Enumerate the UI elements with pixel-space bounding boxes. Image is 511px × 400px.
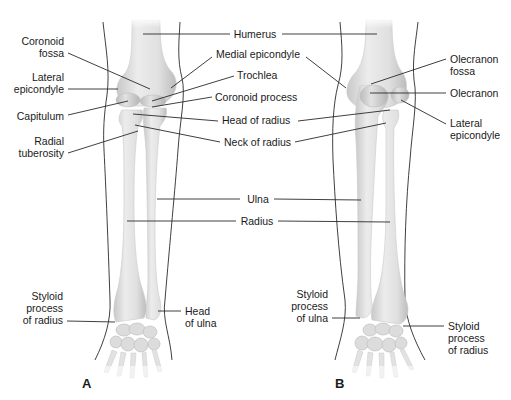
lateral-epicondyle-b xyxy=(391,87,409,103)
label-head-of-ulna-a: Head of ulna xyxy=(158,305,217,329)
svg-text:Olecranon: Olecranon xyxy=(450,53,499,65)
svg-text:process: process xyxy=(26,302,63,314)
svg-text:Ulna: Ulna xyxy=(247,193,269,205)
label-ulna: Ulna xyxy=(157,193,361,205)
svg-text:tuberosity: tuberosity xyxy=(18,147,64,159)
svg-text:Head of radius: Head of radius xyxy=(222,114,290,126)
svg-text:fossa: fossa xyxy=(450,65,475,77)
svg-text:Lateral: Lateral xyxy=(450,117,482,129)
svg-text:of ulna: of ulna xyxy=(185,317,217,329)
svg-text:Neck of radius: Neck of radius xyxy=(224,136,291,148)
svg-text:Coronoid process: Coronoid process xyxy=(215,91,297,103)
capitulum-a xyxy=(116,93,140,107)
label-lateral-epicondyle-a: Lateral epicondyle xyxy=(14,71,118,95)
label-neck-of-radius: Neck of radius xyxy=(135,123,386,148)
olecranon-b xyxy=(360,85,388,107)
svg-text:epicondyle: epicondyle xyxy=(450,129,500,141)
label-radial-tuberosity-a: Radial tuberosity xyxy=(18,131,138,159)
label-head-of-radius: Head of radius xyxy=(133,110,390,126)
svg-text:Trochlea: Trochlea xyxy=(237,69,278,81)
carpal-bones-a xyxy=(110,323,160,352)
radius-a xyxy=(114,110,146,322)
svg-text:Coronoid: Coronoid xyxy=(21,35,64,47)
skin-outline-left-a xyxy=(95,22,110,360)
label-styloid-process-of-ulna-b: Styloid process of ulna xyxy=(291,288,360,324)
label-styloid-process-of-radius-b: Styloid process of radius xyxy=(403,320,488,356)
svg-text:Olecranon: Olecranon xyxy=(450,87,499,99)
label-capitulum-a: Capitulum xyxy=(17,101,128,122)
skin-outline-left-b xyxy=(333,22,346,360)
label-radius: Radius xyxy=(127,215,390,227)
svg-text:process: process xyxy=(291,300,328,312)
svg-text:Head: Head xyxy=(185,305,210,317)
svg-text:Styloid: Styloid xyxy=(296,288,328,300)
carpal-bones-b xyxy=(355,323,407,352)
svg-text:Lateral: Lateral xyxy=(32,71,64,83)
label-styloid-process-of-radius-a: Styloid process of radius xyxy=(23,290,115,326)
svg-text:Styloid: Styloid xyxy=(448,320,480,332)
panel-a: Coronoid fossa Lateral epicondyle Capitu… xyxy=(14,18,217,391)
svg-text:Radius: Radius xyxy=(241,215,274,227)
forearm-diagram: Coronoid fossa Lateral epicondyle Capitu… xyxy=(0,0,511,400)
svg-text:fossa: fossa xyxy=(39,47,64,59)
svg-text:Medial epicondyle: Medial epicondyle xyxy=(216,48,300,60)
panel-b: Olecranon fossa Olecranon Lateral epicon… xyxy=(291,18,500,391)
svg-text:Capitulum: Capitulum xyxy=(17,110,65,122)
svg-text:process: process xyxy=(448,332,485,344)
svg-text:epicondyle: epicondyle xyxy=(14,83,64,95)
label-humerus: Humerus xyxy=(143,28,377,40)
svg-text:Styloid: Styloid xyxy=(31,290,63,302)
panel-label-b: B xyxy=(335,376,344,391)
svg-text:of ulna: of ulna xyxy=(296,312,328,324)
svg-text:Radial: Radial xyxy=(34,135,64,147)
svg-text:Humerus: Humerus xyxy=(234,28,277,40)
radius-b xyxy=(371,110,408,324)
ulna-a xyxy=(143,108,166,320)
label-medial-epicondyle: Medial epicondyle xyxy=(171,48,346,88)
center-labels: Humerus Medial epicondyle Trochlea Coron… xyxy=(127,28,390,227)
label-lateral-epicondyle-b: Lateral epicondyle xyxy=(401,100,500,141)
svg-text:of radius: of radius xyxy=(23,314,63,326)
svg-text:of radius: of radius xyxy=(448,344,488,356)
panel-label-a: A xyxy=(82,376,92,391)
